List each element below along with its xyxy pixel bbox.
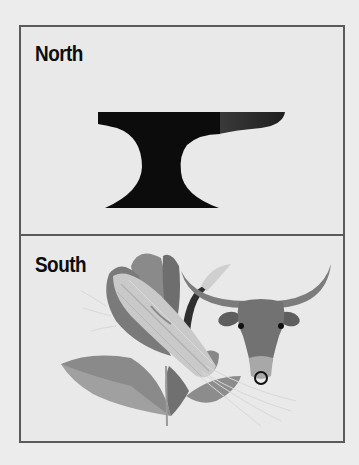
wheat-and-bull-icon bbox=[21, 236, 343, 441]
panel-south: South bbox=[21, 236, 343, 441]
region-comparison-frame: North South bbox=[19, 25, 345, 443]
anvil-icon bbox=[21, 27, 343, 234]
leaves-icon bbox=[61, 254, 241, 427]
panel-north: North bbox=[21, 27, 343, 234]
